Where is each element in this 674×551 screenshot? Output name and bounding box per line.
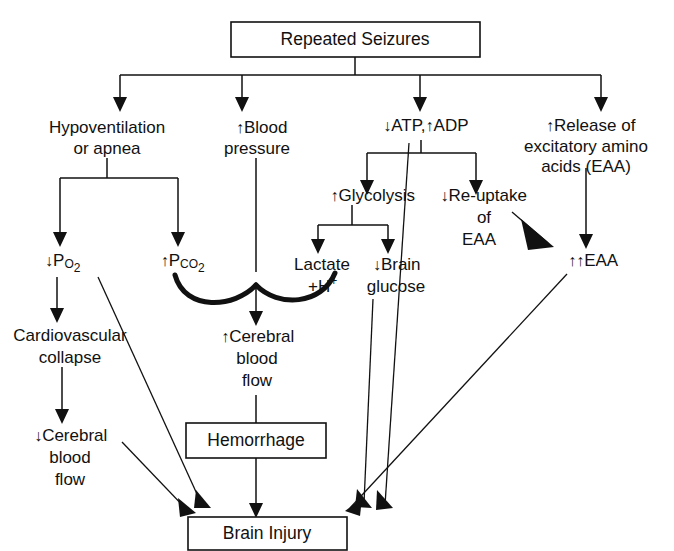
arrowhead-reuptake-to-eaa bbox=[521, 219, 554, 250]
node-cbfdown-line3: flow bbox=[55, 470, 86, 489]
node-cbfup-line1: ↑Cerebral bbox=[179, 327, 328, 346]
arrowhead-cbfup bbox=[249, 311, 263, 326]
arrowhead-atp bbox=[413, 97, 427, 112]
up-arrow-icon: ↑ bbox=[236, 119, 244, 136]
node-cardiovascular-collapse-line1: Cardiovascular bbox=[13, 326, 127, 345]
node-hypoventilation-line1: Hypoventilation bbox=[49, 118, 165, 137]
arrowhead-po2 bbox=[53, 232, 67, 247]
node-release-eaa-line2: excitatory amino bbox=[524, 137, 648, 156]
down-arrow-icon: ↓ bbox=[45, 252, 53, 269]
arrowhead-atp-brain bbox=[376, 490, 393, 510]
label-layer: Repeated Seizures Hypoventilation or apn… bbox=[0, 29, 668, 543]
up-arrow-icon: ↑ bbox=[330, 187, 338, 204]
node-pco2-label: ↑PCO2 bbox=[118, 251, 238, 277]
node-hypoventilation-line2: or apnea bbox=[73, 139, 141, 158]
node-repeated-seizures-label: Repeated Seizures bbox=[281, 29, 430, 49]
node-blood-pressure-line2: pressure bbox=[224, 139, 290, 158]
arrowhead-brain-glucose bbox=[381, 239, 395, 254]
up-arrow-icon: ↑ bbox=[546, 117, 554, 134]
node-cbfup-line3: flow bbox=[242, 371, 273, 390]
arrowhead-po2-brain bbox=[194, 490, 211, 508]
down-arrow-icon: ↓ bbox=[383, 117, 391, 134]
arrowhead-hypovent bbox=[113, 97, 127, 112]
down-arrow-icon: ↓ bbox=[34, 427, 42, 444]
node-brain-glucose-line2: glucose bbox=[367, 277, 426, 296]
arrowhead-hemorrhage-to-brain bbox=[249, 503, 263, 518]
edge-brainglucose-brain-injury bbox=[364, 299, 373, 503]
node-brain-glucose-line1: ↓Brain bbox=[330, 255, 453, 274]
arrowhead-lactate bbox=[311, 239, 325, 254]
arrowhead-pco2 bbox=[171, 232, 185, 247]
node-atp-adp-label: ↓ATP,↑ADP bbox=[341, 116, 502, 135]
node-cbfdown-line2: blood bbox=[49, 448, 91, 467]
arrowhead-eaa-increase-top bbox=[579, 234, 593, 249]
node-blood-pressure-line1: ↑Blood bbox=[193, 118, 320, 137]
flowchart-svg: Repeated Seizures Hypoventilation or apn… bbox=[0, 0, 674, 551]
node-po2-label: ↓PO2 bbox=[3, 251, 114, 277]
node-reuptake-line1: ↓Re-uptake bbox=[398, 186, 560, 205]
arrowhead-bp bbox=[235, 97, 249, 112]
node-lactate-line2: +H+ bbox=[266, 271, 371, 296]
arrowhead-cbfdown-brain bbox=[178, 498, 196, 517]
up-arrow-icon: ↑ bbox=[221, 328, 229, 345]
node-reuptake-line2: of bbox=[477, 208, 491, 227]
down-arrow-icon: ↓ bbox=[373, 256, 381, 273]
arrowhead-eaa-release bbox=[594, 97, 608, 112]
node-reuptake-line3: EAA bbox=[462, 230, 497, 249]
node-cbfdown-line1: ↓Cerebral bbox=[0, 426, 140, 445]
brace-pco2-curve bbox=[175, 275, 256, 303]
double-up-arrow-icon: ↑↑ bbox=[568, 252, 584, 269]
node-cbfup-line2: blood bbox=[236, 349, 278, 368]
node-hemorrhage-label: Hemorrhage bbox=[207, 430, 304, 450]
edge-eaaup-brain-injury bbox=[350, 274, 567, 508]
arrowhead-cardio bbox=[50, 308, 64, 323]
node-release-eaa-line1: ↑Release of bbox=[504, 116, 669, 135]
flowchart-canvas: Repeated Seizures Hypoventilation or apn… bbox=[0, 0, 674, 551]
node-brain-injury-label: Brain Injury bbox=[223, 523, 312, 543]
node-eaa-increase-label: ↑↑EAA bbox=[526, 251, 651, 270]
arrowhead-cbfdown bbox=[55, 409, 69, 424]
arrowhead-eaaup-brain bbox=[345, 498, 362, 516]
down-arrow-icon: ↓ bbox=[441, 187, 449, 204]
node-release-eaa-line3: acids (EAA) bbox=[541, 157, 631, 176]
node-cardiovascular-collapse-line2: collapse bbox=[39, 348, 101, 367]
up-arrow-icon: ↑ bbox=[161, 252, 169, 269]
up-arrow-icon: ↑ bbox=[426, 117, 434, 134]
